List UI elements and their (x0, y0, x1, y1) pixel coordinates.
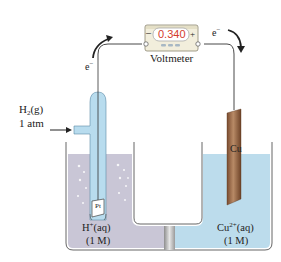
ion-symbol: Cu (217, 222, 229, 233)
galvanic-cell-diagram: 0.340 – + Voltmeter e− e− H2(g) 1 atm Pt… (0, 0, 281, 262)
left-concentration-label: (1 M) (86, 236, 110, 247)
left-electron-arrow (93, 39, 108, 58)
ion-symbol: H (82, 222, 90, 233)
right-electron-label: e− (212, 27, 220, 38)
cu-electrode-label: Cu (230, 144, 242, 154)
salt-bridge-plug (164, 226, 175, 250)
ion-state: (aq) (237, 222, 254, 233)
gas-formula: H (19, 103, 27, 115)
voltmeter-positive-sign: + (190, 30, 195, 39)
copper-electrode (227, 109, 241, 205)
ion-state: (aq) (94, 222, 111, 233)
voltmeter-label: Voltmeter (150, 53, 193, 64)
left-half-cell (68, 154, 165, 248)
ion-charge: 2+ (229, 221, 236, 229)
left-electron-label: e− (85, 61, 93, 72)
pt-electrode-label: Pt (95, 203, 101, 210)
right-arrowhead-icon (237, 46, 245, 53)
left-arrowhead-icon (106, 35, 113, 42)
gas-pressure-label: 1 atm (19, 118, 44, 129)
right-half-cell (173, 154, 270, 248)
hydrogen-gas-label: H2(g) (19, 104, 43, 117)
gas-inlet-arrow (50, 127, 72, 133)
voltmeter-reading: 0.340 (158, 29, 186, 40)
right-solution-label: Cu2+(aq) (217, 222, 254, 234)
voltmeter-negative-sign: – (146, 28, 151, 38)
negative-terminal-icon (144, 42, 148, 46)
electron-charge: − (89, 60, 93, 68)
right-concentration-label: (1 M) (224, 236, 248, 247)
electron-charge: − (216, 26, 220, 34)
left-solution-label: H+(aq) (82, 222, 110, 234)
gas-state: (g) (30, 103, 43, 115)
positive-terminal-icon (196, 42, 200, 46)
